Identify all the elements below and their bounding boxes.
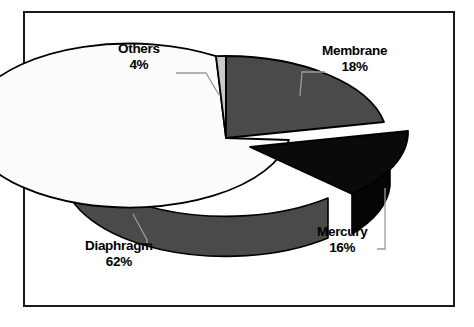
slice-label-mercury: Mercury 16% <box>317 224 367 256</box>
slice-label-membrane-name: Membrane <box>322 43 387 59</box>
pie-chart-svg <box>0 0 474 327</box>
slice-label-others: Others 4% <box>118 41 160 73</box>
pie-chart <box>0 0 474 327</box>
slice-label-diaphragm-percent: 62% <box>85 254 153 270</box>
slice-label-membrane-percent: 18% <box>322 59 387 75</box>
slice-label-diaphragm: Diaphragm 62% <box>85 238 153 270</box>
slice-label-mercury-percent: 16% <box>317 240 367 256</box>
slice-label-others-percent: 4% <box>118 57 160 73</box>
slice-label-diaphragm-name: Diaphragm <box>85 238 153 254</box>
slice-label-membrane: Membrane 18% <box>322 43 387 75</box>
slice-label-others-name: Others <box>118 41 160 57</box>
slice-label-mercury-name: Mercury <box>317 224 367 240</box>
